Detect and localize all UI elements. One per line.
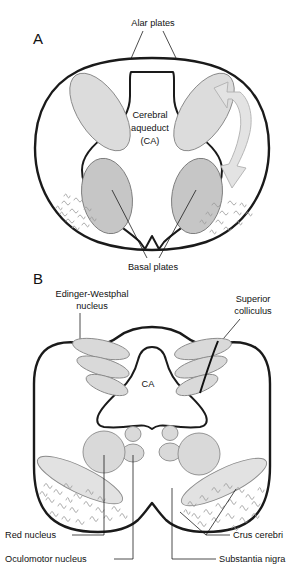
edinger-westphal-nucleus-right [162, 426, 178, 441]
sc-line-2: colliculus [234, 306, 272, 316]
ew-line-1: Edinger-Westphal [56, 289, 129, 299]
edinger-westphal-nucleus-left [125, 427, 141, 442]
panel-a-letter: A [33, 30, 43, 47]
panel-b-ca-label: CA [142, 379, 156, 389]
red-nucleus-label: Red nucleus [5, 530, 56, 540]
basal-plates-label: Basal plates [128, 262, 178, 272]
substantia-nigra-label: Substantia nigra [219, 554, 286, 564]
sc-line-1: Superior [236, 294, 271, 304]
ca-line-3: (CA) [141, 136, 160, 146]
oculomotor-nucleus-label: Oculomotor nucleus [5, 554, 87, 564]
anatomy-figure: A Alar plates [0, 0, 306, 582]
ca-line-2: aqueduct [131, 123, 169, 133]
ew-line-2: nucleus [76, 301, 108, 311]
panel-b-letter: B [33, 270, 43, 287]
crus-cerebri-label: Crus cerebri [233, 530, 283, 540]
figure-root: A Alar plates [0, 0, 306, 582]
alar-plates-label: Alar plates [131, 18, 175, 28]
ca-line-1: Cerebral [132, 110, 167, 120]
red-nucleus-right [178, 433, 220, 475]
